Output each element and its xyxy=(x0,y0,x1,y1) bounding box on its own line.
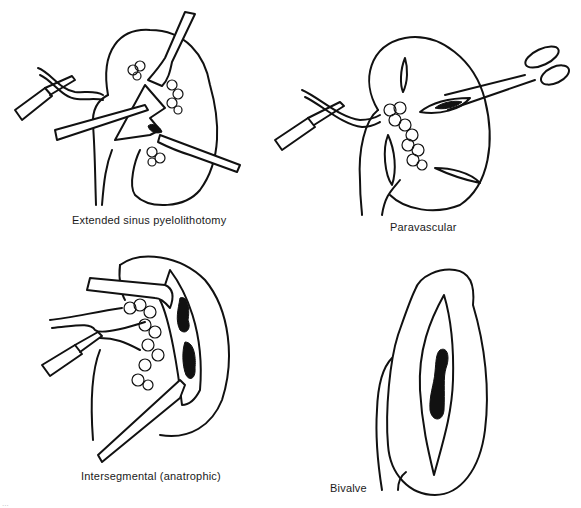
panel-label-bivalve: Bivalve xyxy=(330,482,367,494)
panel-label-paravascular: Paravascular xyxy=(390,221,457,233)
panel-label-intersegmental: Intersegmental (anatrophic) xyxy=(81,470,221,482)
panel-bivalve: Bivalve xyxy=(290,250,581,508)
panel-intersegmental-anatrophic: Intersegmental (anatrophic) xyxy=(0,250,290,508)
kidney-bivalve-illustration xyxy=(290,250,581,508)
panel-extended-sinus-pyelolithotomy: Extended sinus pyelolithotomy xyxy=(0,0,290,250)
figure-caption-fragment: ... xyxy=(2,499,9,508)
kidney-paravascular-illustration xyxy=(270,0,581,250)
kidney-extended-sinus-illustration xyxy=(0,0,290,250)
panel-label-extended-sinus: Extended sinus pyelolithotomy xyxy=(72,214,226,226)
panel-paravascular: Paravascular xyxy=(270,0,581,250)
